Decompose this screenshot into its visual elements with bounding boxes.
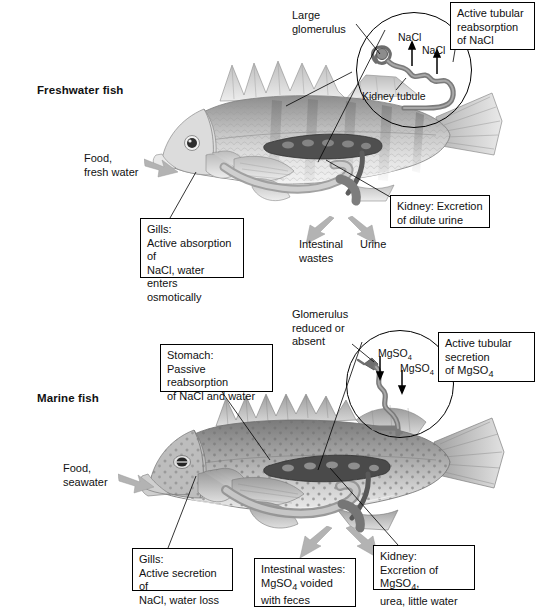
marine-intestinal-line2-suffix: voided [297, 577, 332, 589]
osmoregulation-figure: NaCl NaCl Kidney tubule Freshwater fish … [0, 0, 535, 615]
marine-transport-line3-prefix: of MgSO [445, 364, 488, 376]
freshwater-gills-callout: Gills: Active absorption of NaCl, water … [140, 218, 244, 278]
marine-intestinal-line3: with feces [261, 594, 310, 606]
marine-kidney-line2-suffix: , [416, 577, 419, 589]
marine-kidney-line2: Excretion of MgSO4, [380, 564, 438, 590]
marine-active-transport-box: Active tubularsecretionof MgSO4 [438, 332, 535, 382]
marine-kidney-line1: Kidney: [380, 550, 417, 562]
marine-transport-line1: Active tubular [445, 337, 512, 349]
marine-kidney-line3: urea, little water [380, 595, 458, 607]
marine-stomach-callout: Stomach: Passive reabsorption of NaCl an… [160, 344, 273, 392]
marine-transport-line3: of MgSO4 [445, 364, 494, 376]
marine-gills-callout: Gills: Active secretion of NaCl, water l… [132, 548, 233, 591]
marine-transport-line3-sub: 4 [488, 369, 493, 379]
marine-intestinal-line1: Intestinal wastes: [261, 563, 345, 575]
marine-kidney-callout: Kidney:Excretion of MgSO4,urea, little w… [373, 545, 475, 590]
marine-intestinal-wastes-callout: Intestinal wastes:MgSO4 voidedwith feces [254, 558, 356, 607]
marine-intestinal-line2-prefix: MgSO [261, 577, 292, 589]
freshwater-kidney-callout: Kidney: Excretion of dilute urine [390, 195, 490, 228]
marine-intestinal-line2: MgSO4 voided [261, 577, 333, 589]
marine-kidney-line2-prefix: Excretion of MgSO [380, 564, 438, 590]
freshwater-active-transport-box: Active tubular reabsorption of NaCl [450, 2, 535, 50]
marine-transport-line2: secretion [445, 351, 490, 363]
